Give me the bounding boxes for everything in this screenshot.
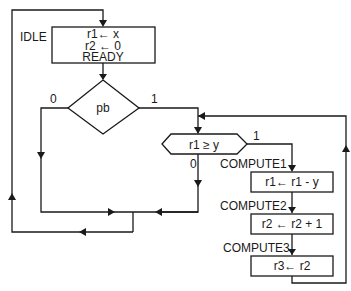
branch-label-0: 0	[190, 157, 197, 171]
idle-output-ready: READY	[82, 50, 123, 64]
branch-label-1: 1	[151, 92, 158, 106]
arrow-icon	[99, 20, 107, 27]
arrow-icon	[8, 193, 16, 200]
arrow-icon	[194, 180, 202, 187]
branch-label-0: 0	[50, 92, 57, 106]
asm-chart: IDLE r1← x r2 ← 0 READY pb 0 1 r1 ≥ y 0 …	[0, 0, 351, 291]
arrow-icon	[194, 127, 202, 134]
pb-false-path	[41, 108, 198, 212]
compute2-action: r2 ← r2 + 1	[262, 217, 323, 231]
branch-label-1: 1	[253, 129, 260, 143]
arrow-icon	[37, 152, 45, 159]
compute1-action: r1← r1 - y	[265, 175, 318, 189]
arrow-icon	[342, 145, 350, 152]
compute3-action: r3← r2	[274, 259, 311, 273]
state-name-compute1: COMPUTE1	[220, 157, 287, 171]
state-name-compute3: COMPUTE3	[223, 241, 290, 255]
decision-pb-label: pb	[96, 101, 110, 115]
arrow-icon	[108, 208, 115, 216]
state-name-compute2: COMPUTE2	[220, 199, 287, 213]
decision-r1-ge-y-label: r1 ≥ y	[189, 138, 219, 152]
arrow-icon	[288, 207, 296, 213]
arrow-icon	[79, 228, 86, 236]
pb-true-path	[139, 108, 198, 133]
arrow-icon	[198, 112, 205, 120]
arrow-icon	[99, 74, 107, 80]
arrow-icon	[288, 165, 296, 172]
state-name-idle: IDLE	[20, 30, 47, 44]
arrow-icon	[155, 208, 162, 216]
